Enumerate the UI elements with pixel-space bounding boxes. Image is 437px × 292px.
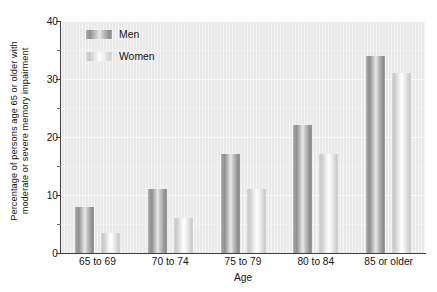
legend-swatch-men-icon [86, 30, 112, 39]
y-tick-mark-minor [57, 108, 61, 109]
bar-men [148, 189, 167, 253]
x-tick-label: 85 or older [364, 256, 413, 267]
legend-item-men: Men [86, 26, 206, 43]
bar-women [319, 154, 338, 253]
memory-impairment-bar-chart: Percentage of persons age 65 or older wi… [0, 0, 437, 292]
y-tick-mark-minor [57, 224, 61, 225]
y-axis-title: Percentage of persons age 65 or older wi… [0, 0, 40, 262]
y-tick-mark-major [56, 137, 61, 138]
x-axis-title: Age [61, 272, 425, 283]
y-tick-mark-major [56, 21, 61, 22]
chart-legend: Men Women [86, 26, 206, 70]
x-tick-label: 80 to 84 [297, 256, 334, 267]
y-axis-title-line-2: moderate or severe memory impairment [20, 41, 31, 221]
x-axis-spine [60, 253, 426, 255]
y-tick-mark-major [56, 79, 61, 80]
x-tick-label: 75 to 79 [225, 256, 262, 267]
bar-men [75, 207, 94, 253]
y-tick-mark-minor [57, 166, 61, 167]
x-tick-label: 65 to 69 [79, 256, 116, 267]
bar-men [366, 56, 385, 253]
legend-swatch-women-icon [86, 52, 112, 61]
bar-women [392, 73, 411, 253]
x-axis-tick-labels: 65 to 6970 to 7475 to 7980 to 8485 or ol… [61, 256, 425, 272]
legend-label-men: Men [119, 29, 139, 40]
y-tick-mark-major [56, 195, 61, 196]
x-tick-label: 70 to 74 [152, 256, 189, 267]
bar-men [221, 154, 240, 253]
legend-item-women: Women [86, 48, 206, 65]
y-axis-title-line-1: Percentage of persons age 65 or older wi… [9, 41, 20, 221]
bar-women [101, 233, 120, 253]
bar-men [293, 125, 312, 253]
y-tick-mark-minor [57, 50, 61, 51]
legend-label-women: Women [119, 51, 155, 62]
bar-women [247, 189, 266, 253]
bar-women [174, 218, 193, 253]
